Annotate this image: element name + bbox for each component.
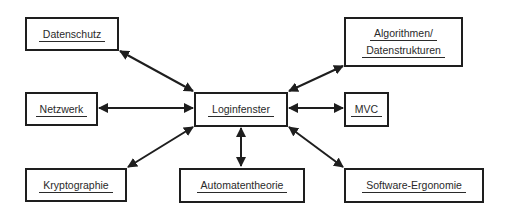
node-mvc: MVC — [344, 92, 389, 127]
node-automatentheorie: Automatentheorie — [179, 168, 305, 203]
node-algorithmen-datenstrukturen: Algorithmen/ Datenstrukturen — [344, 17, 463, 67]
node-label: MVC — [351, 102, 382, 117]
node-loginfenster: Loginfenster — [194, 92, 288, 127]
edge-login-algorithmen — [289, 66, 343, 91]
node-datenschutz: Datenschutz — [25, 17, 119, 51]
node-kryptographie: Kryptographie — [25, 168, 127, 202]
node-software-ergonomie: Software-Ergonomie — [344, 168, 484, 203]
node-label-line2: Datenstrukturen — [362, 43, 445, 58]
node-label: Datenschutz — [39, 27, 105, 42]
node-label: Automatentheorie — [197, 178, 288, 193]
node-label: Netzwerk — [36, 102, 88, 117]
node-label: Software-Ergonomie — [362, 178, 466, 193]
concept-diagram: Datenschutz Algorithmen/ Datenstrukturen… — [0, 0, 505, 217]
node-netzwerk: Netzwerk — [25, 92, 98, 126]
edge-login-kryptographie — [128, 127, 193, 167]
node-label-line1: Algorithmen/ — [370, 26, 437, 41]
node-label: Loginfenster — [208, 102, 274, 117]
node-label: Kryptographie — [39, 178, 112, 193]
edge-login-ergonomie — [289, 127, 343, 167]
edge-login-datenschutz — [120, 51, 193, 91]
